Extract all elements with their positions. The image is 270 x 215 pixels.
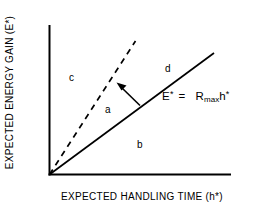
equation-lhs: E	[162, 90, 170, 102]
x-axis-title: EXPECTED HANDLING TIME (h*)	[49, 191, 235, 202]
equation-rhs-var: h	[219, 90, 226, 102]
direction-arrow	[117, 83, 141, 106]
equation-annotation: E*=Rmaxh*	[162, 89, 229, 104]
region-label-c: c	[69, 72, 74, 83]
y-axis-title: EXPECTED ENERGY GAIN (E*)	[4, 0, 22, 200]
equation-equals: =	[179, 90, 186, 102]
equation-rhs-symbol: R	[196, 90, 205, 102]
plot-area	[0, 0, 270, 215]
equation-lhs-star: *	[170, 89, 174, 99]
region-label-b: b	[137, 139, 143, 150]
figure-canvas: EXPECTED ENERGY GAIN (E*) EXPECTED HANDL…	[0, 0, 270, 215]
solid-rmax-line	[50, 53, 215, 175]
equation-rhs-subscript: max	[204, 95, 219, 104]
region-label-a: a	[105, 104, 111, 115]
equation-rhs-star: *	[226, 89, 230, 99]
dashed-reference-line	[50, 41, 136, 175]
region-label-d: d	[165, 63, 171, 74]
